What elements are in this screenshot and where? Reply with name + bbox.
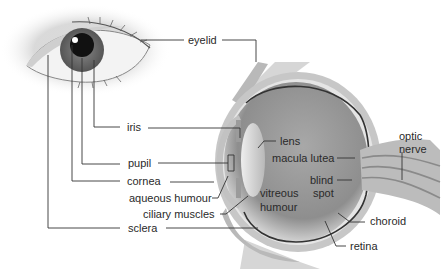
label-eyelid: eyelid — [188, 34, 217, 46]
label-aqueous-humour: aqueous humour — [129, 192, 212, 204]
label-cornea: cornea — [127, 175, 161, 187]
label-choroid: choroid — [370, 215, 406, 227]
label-humour: humour — [260, 201, 297, 213]
label-optic: optic — [399, 130, 422, 142]
label-iris: iris — [127, 121, 141, 133]
label-pupil: pupil — [128, 157, 151, 169]
eye-anatomy-diagram: eyelid iris pupil cornea aqueous humour … — [0, 0, 447, 269]
label-sclera: sclera — [128, 222, 157, 234]
external-eye-illustration — [0, 4, 170, 96]
label-vitreous: vitreous — [260, 187, 299, 199]
label-retina: retina — [350, 240, 378, 252]
label-blind: blind — [310, 174, 333, 186]
label-ciliary-muscles: ciliary muscles — [143, 208, 215, 220]
label-macula-lutea: macula lutea — [272, 152, 334, 164]
label-lens: lens — [280, 135, 300, 147]
label-nerve: nerve — [399, 143, 427, 155]
diagram-graphics — [0, 0, 447, 269]
label-spot: spot — [313, 187, 334, 199]
cross-section-illustration — [215, 62, 440, 269]
